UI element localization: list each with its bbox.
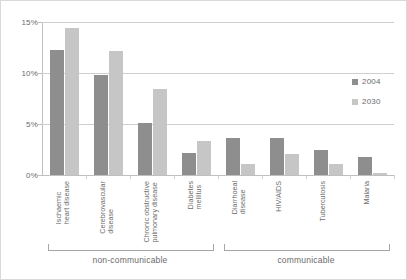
legend-label-2030: 2030 xyxy=(362,97,381,106)
y-axis-tick-label: 10% xyxy=(21,69,38,78)
group-bracket-label: non-communicable xyxy=(48,255,212,265)
y-axis-tick-mark xyxy=(38,175,42,176)
bar-2030[interactable] xyxy=(65,28,79,175)
x-axis-category-label: Diabetes mellitus xyxy=(187,181,204,209)
bar-2030[interactable] xyxy=(241,164,255,175)
bar-2004[interactable] xyxy=(138,123,152,175)
x-axis-category-label: Ischaemic heart disease xyxy=(55,181,72,224)
bar-group xyxy=(86,22,130,175)
bar-group xyxy=(174,22,218,175)
y-axis-tick-mark xyxy=(38,73,42,74)
x-axis-tick-mark xyxy=(306,175,307,179)
chart-legend: 2004 2030 xyxy=(352,77,381,106)
bar-2004[interactable] xyxy=(226,138,240,175)
bar-2030[interactable] xyxy=(285,154,299,175)
y-axis-tick-mark xyxy=(38,22,42,23)
group-bracket-label: communicable xyxy=(224,255,388,265)
x-axis-category-label: Chronic obstructive pulmonary disease xyxy=(143,181,160,243)
bar-group xyxy=(306,22,350,175)
x-axis-tick-mark xyxy=(130,175,131,179)
legend-swatch-icon-2004 xyxy=(352,79,358,85)
x-axis-category-label: Tuberculosis xyxy=(319,181,327,221)
bar-2030[interactable] xyxy=(109,51,123,175)
bar-2030[interactable] xyxy=(197,141,211,175)
y-axis: 0%5%10%15% xyxy=(1,1,38,280)
bar-2004[interactable] xyxy=(358,157,372,175)
bar-2004[interactable] xyxy=(314,150,328,176)
legend-swatch-icon-2030 xyxy=(352,99,358,105)
bar-group xyxy=(218,22,262,175)
plot-area xyxy=(42,22,394,175)
bar-2004[interactable] xyxy=(270,138,284,175)
x-axis-tick-mark xyxy=(174,175,175,179)
x-axis-tick-mark xyxy=(394,175,395,179)
x-axis-tick-mark xyxy=(350,175,351,179)
bar-group xyxy=(262,22,306,175)
x-axis-category-label: Cerebrovascular disease xyxy=(99,181,116,234)
bar-2030[interactable] xyxy=(329,164,343,175)
y-axis-tick-label: 15% xyxy=(21,18,38,27)
bar-2004[interactable] xyxy=(182,153,196,175)
group-bracket xyxy=(224,244,390,251)
x-axis-category-label: Malaria xyxy=(363,181,371,205)
bar-2004[interactable] xyxy=(94,75,108,175)
legend-item-2030[interactable]: 2030 xyxy=(352,97,381,106)
x-axis-category-label: HIV/AIDS xyxy=(275,181,283,212)
bar-group xyxy=(130,22,174,175)
x-axis-tick-mark xyxy=(86,175,87,179)
x-axis-tick-mark xyxy=(262,175,263,179)
bar-2030[interactable] xyxy=(373,173,387,175)
legend-item-2004[interactable]: 2004 xyxy=(352,77,381,86)
x-axis-tick-mark xyxy=(218,175,219,179)
bar-2030[interactable] xyxy=(153,89,167,175)
bar-2004[interactable] xyxy=(50,50,64,175)
y-axis-tick-label: 0% xyxy=(26,171,38,180)
x-axis-category-label: Diarrhoeal disease xyxy=(231,181,248,214)
y-axis-tick-mark xyxy=(38,124,42,125)
bar-group xyxy=(42,22,86,175)
y-axis-tick-label: 5% xyxy=(26,120,38,129)
legend-label-2004: 2004 xyxy=(362,77,381,86)
group-bracket xyxy=(48,244,214,251)
chart-container: 0%5%10%15% Ischaemic heart diseaseCerebr… xyxy=(0,0,407,280)
